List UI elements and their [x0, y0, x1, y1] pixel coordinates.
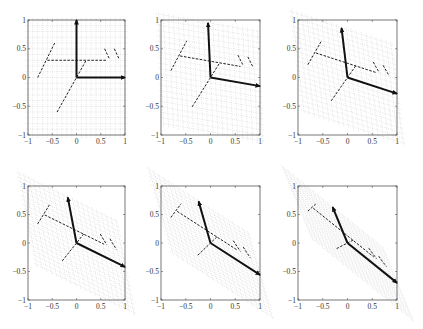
- panels-group: −1−0.500.5110.50−0.5−1−1−0.500.5110.50−0…: [12, 9, 414, 320]
- dashed-shape: [308, 203, 386, 266]
- y-tick-label: −1: [288, 131, 296, 140]
- y-tick-label: 0: [155, 73, 159, 82]
- y-tick-label: 1: [292, 182, 296, 191]
- y-tick-label: 0: [292, 73, 296, 82]
- figure-canvas: −1−0.500.5110.50−0.5−1−1−0.500.5110.50−0…: [0, 0, 423, 329]
- y-tick-label: 0.5: [17, 44, 27, 53]
- y-tick-label: −1: [151, 131, 159, 140]
- x-tick-label: 0: [75, 302, 79, 311]
- y-tick-label: −1: [18, 131, 26, 140]
- x-tick-label: 0.5: [96, 302, 106, 311]
- y-tick-label: −0.5: [282, 102, 296, 111]
- x-tick-label: 0: [346, 302, 350, 311]
- x-tick-label: 1: [395, 137, 399, 146]
- y-tick-label: 0.5: [287, 210, 297, 219]
- basis-vector-e2: [342, 28, 348, 77]
- y-tick-label: 0: [155, 239, 159, 248]
- y-tick-label: 0.5: [287, 44, 297, 53]
- y-tick-label: 0.5: [150, 210, 160, 219]
- y-tick-label: −1: [151, 296, 159, 305]
- x-tick-label: −0.5: [316, 137, 330, 146]
- basis-vector-e2: [208, 23, 210, 78]
- x-tick-label: 1: [258, 137, 262, 146]
- x-tick-label: −0.5: [316, 302, 330, 311]
- x-tick-label: 0: [75, 137, 79, 146]
- x-tick-label: 0: [209, 137, 213, 146]
- y-tick-label: −0.5: [145, 102, 159, 111]
- panel-4: −1−0.500.5110.50−0.5−1: [12, 171, 136, 315]
- x-tick-label: −0.5: [45, 302, 59, 311]
- panel-6: −1−0.500.5110.50−0.5−1: [281, 165, 415, 321]
- x-tick-label: 0.5: [231, 137, 241, 146]
- y-tick-label: −1: [288, 296, 296, 305]
- x-tick-label: 0.5: [368, 302, 378, 311]
- y-tick-label: 0: [292, 239, 296, 248]
- y-tick-label: −0.5: [282, 267, 296, 276]
- basis-vector-e1: [211, 78, 261, 87]
- basis-vector-e1: [348, 243, 398, 283]
- y-tick-label: 1: [22, 182, 26, 191]
- y-tick-label: 1: [292, 16, 296, 25]
- basis-vector-e1: [211, 243, 261, 275]
- x-tick-label: 0.5: [96, 137, 106, 146]
- x-tick-label: 0: [209, 302, 213, 311]
- dashed-shape: [308, 41, 389, 101]
- dashed-shape: [38, 205, 117, 261]
- basis-vector-e2: [68, 197, 77, 243]
- panel-3: −1−0.500.5110.50−0.5−1: [282, 9, 405, 146]
- y-tick-label: 0: [22, 239, 26, 248]
- y-tick-label: 0: [22, 73, 26, 82]
- x-tick-label: 0.5: [368, 137, 378, 146]
- y-tick-label: 1: [155, 182, 159, 191]
- x-tick-label: 1: [123, 302, 127, 311]
- x-tick-label: 0.5: [231, 302, 241, 311]
- y-tick-label: 0.5: [150, 44, 160, 53]
- x-tick-label: 0: [346, 137, 350, 146]
- basis-vector-e1: [348, 78, 398, 94]
- y-tick-label: −0.5: [12, 267, 26, 276]
- y-tick-label: 1: [22, 16, 26, 25]
- x-tick-label: −0.5: [179, 137, 193, 146]
- y-tick-label: 0.5: [17, 210, 27, 219]
- panel-2: −1−0.500.5110.50−0.5−1: [145, 12, 265, 146]
- panel-5: −1−0.500.5110.50−0.5−1: [145, 167, 274, 318]
- x-tick-label: 1: [395, 302, 399, 311]
- y-tick-label: −0.5: [12, 102, 26, 111]
- y-tick-label: −0.5: [145, 267, 159, 276]
- x-tick-label: 1: [123, 137, 127, 146]
- x-tick-label: 1: [258, 302, 262, 311]
- x-tick-label: −0.5: [45, 137, 59, 146]
- y-tick-label: 1: [155, 16, 159, 25]
- panel-1: −1−0.500.5110.50−0.5−1: [12, 16, 127, 147]
- x-tick-label: −0.5: [179, 302, 193, 311]
- y-tick-label: −1: [18, 296, 26, 305]
